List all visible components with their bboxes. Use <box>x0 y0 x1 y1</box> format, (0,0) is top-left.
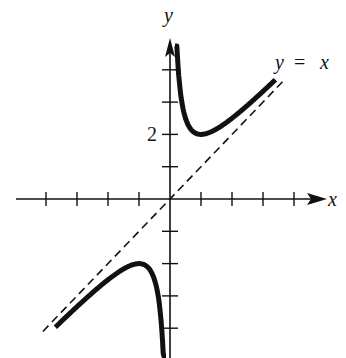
curve-positive-branch <box>175 46 275 134</box>
curve-negative-branch <box>55 264 166 356</box>
asymptote-label-equals: = <box>294 51 305 73</box>
curves <box>43 46 285 356</box>
asymptote-dashed-line <box>43 79 285 331</box>
asymptote-label-x: x <box>319 51 329 73</box>
y-tick-label-2: 2 <box>147 123 157 145</box>
x-axis-label: x <box>327 188 337 210</box>
y-axis-label: y <box>162 4 173 27</box>
asymptote-label: y = x <box>273 51 329 74</box>
function-plot: y x 2 y = x <box>0 0 346 358</box>
asymptote-label-y: y <box>273 51 284 74</box>
